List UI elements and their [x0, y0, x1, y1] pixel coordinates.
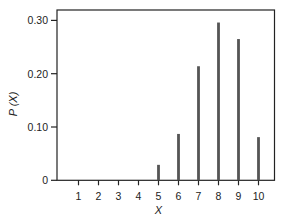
- bar-x-6: [177, 134, 180, 180]
- x-tick-label: 7: [196, 190, 202, 202]
- x-tick-label: 5: [156, 190, 162, 202]
- x-axis-ticks: 12345678910: [76, 180, 265, 202]
- x-tick-label: 3: [116, 190, 122, 202]
- y-axis-ticks: 00.100.200.30: [28, 14, 57, 186]
- x-tick-label: 1: [76, 190, 82, 202]
- bar-x-10: [257, 137, 260, 180]
- x-axis-label: X: [154, 204, 163, 216]
- bar-x-9: [237, 39, 240, 180]
- x-tick-label: 8: [216, 190, 222, 202]
- bar-x-5: [157, 165, 160, 180]
- plot-frame: [57, 10, 275, 180]
- y-tick-label: 0.30: [28, 14, 49, 26]
- bar-x-7: [197, 66, 200, 180]
- x-tick-label: 10: [253, 190, 265, 202]
- x-tick-label: 4: [136, 190, 142, 202]
- y-axis-label: P (X): [7, 91, 19, 116]
- x-tick-label: 9: [236, 190, 242, 202]
- probability-bar-chart: 00.100.200.30 12345678910 P (X) X: [0, 0, 286, 224]
- bars: [157, 23, 260, 181]
- y-tick-label: 0: [42, 174, 48, 186]
- bar-x-8: [217, 23, 220, 181]
- y-tick-label: 0.20: [28, 68, 49, 80]
- x-tick-label: 6: [176, 190, 182, 202]
- y-tick-label: 0.10: [28, 121, 49, 133]
- x-tick-label: 2: [96, 190, 102, 202]
